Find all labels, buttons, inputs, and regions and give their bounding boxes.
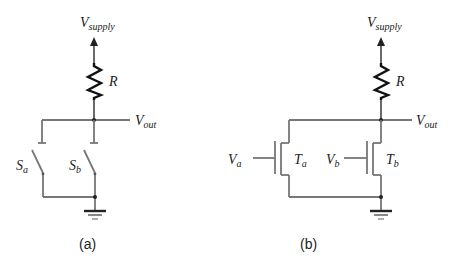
supply-label-a: Vsupply bbox=[80, 15, 115, 32]
circuit-b: Vsupply R Vout Va Ta bbox=[228, 15, 438, 252]
transistor-label-ta: Ta bbox=[294, 152, 307, 169]
supply-arrow-icon bbox=[377, 37, 385, 63]
circuit-diagrams: Vsupply R Vout Sa Sb bbox=[0, 0, 457, 262]
resistor-label-b: R bbox=[395, 74, 405, 89]
supply-arrow-icon bbox=[90, 37, 98, 63]
junction-dot bbox=[379, 195, 383, 199]
output-label-a: Vout bbox=[135, 113, 157, 130]
switch-label-sb: Sb bbox=[69, 158, 81, 175]
caption-b: (b) bbox=[300, 236, 317, 252]
switch-label-sa: Sa bbox=[16, 158, 28, 175]
output-label-b: Vout bbox=[416, 113, 438, 130]
caption-a: (a) bbox=[79, 236, 96, 252]
ground-icon bbox=[370, 211, 392, 219]
junction-dot bbox=[93, 195, 97, 199]
switch-sa-icon bbox=[32, 120, 46, 197]
resistor-icon bbox=[375, 63, 388, 100]
resistor-label-a: R bbox=[108, 74, 118, 89]
transistor-ta-icon bbox=[253, 141, 289, 175]
gate-label-va: Va bbox=[228, 152, 242, 169]
transistor-label-tb: Tb bbox=[386, 152, 399, 169]
supply-label-b: Vsupply bbox=[367, 15, 402, 32]
circuit-a: Vsupply R Vout Sa Sb bbox=[16, 15, 157, 252]
gate-label-vb: Vb bbox=[326, 152, 340, 169]
resistor-icon bbox=[88, 63, 101, 100]
ground-icon bbox=[84, 211, 106, 219]
